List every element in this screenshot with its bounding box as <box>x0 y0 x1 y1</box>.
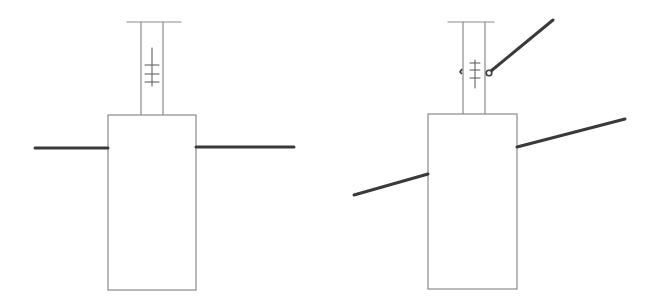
housing-box <box>108 115 196 290</box>
housing-box <box>428 114 517 289</box>
level-gauge-diagram <box>0 0 656 307</box>
pivot-circle-icon <box>486 70 492 76</box>
pointer-arm <box>491 20 553 71</box>
right-tilted-panel <box>354 20 625 289</box>
diagram-canvas <box>0 0 656 307</box>
side-mark-icon <box>460 69 462 74</box>
gauge-scale-icon <box>145 48 159 86</box>
beam-left-segment <box>354 174 428 195</box>
gauge-scale-icon <box>470 60 480 88</box>
beam-right-segment <box>517 119 625 147</box>
left-level-panel <box>35 22 294 290</box>
